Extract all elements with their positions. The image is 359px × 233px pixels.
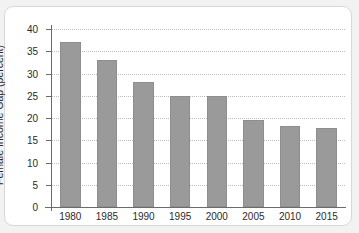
bar	[280, 126, 301, 207]
x-axis-tick-label: 1980	[59, 211, 81, 222]
y-axis-tick-label: 30	[12, 68, 38, 79]
gridline	[52, 29, 345, 30]
y-axis-tick-label: 40	[12, 24, 38, 35]
y-axis-label: Female Income Gap (percent)	[0, 45, 5, 185]
y-axis-tick-label: 20	[12, 113, 38, 124]
x-axis-tick-label: 2010	[279, 211, 301, 222]
chart-card: Female Income Gap (percent) 051015202530…	[4, 6, 352, 226]
x-axis-tick-label: 1985	[96, 211, 118, 222]
y-axis-tick-label: 0	[12, 202, 38, 213]
bar	[97, 60, 118, 207]
x-axis-tick-label: 2000	[206, 211, 228, 222]
bar	[170, 96, 191, 207]
bar	[60, 42, 81, 207]
y-axis-tick-label: 15	[12, 135, 38, 146]
x-axis-tick-label: 1990	[132, 211, 154, 222]
chart-figure: Female Income Gap (percent) 051015202530…	[0, 0, 359, 233]
bar	[207, 96, 228, 207]
y-axis-tick-label: 35	[12, 46, 38, 57]
gridline	[52, 51, 345, 52]
y-axis-tick-mark	[46, 207, 52, 208]
plot-area	[52, 29, 345, 207]
x-axis-tick-label: 2015	[316, 211, 338, 222]
bar	[243, 120, 264, 207]
x-axis-line	[45, 207, 346, 208]
bar	[133, 82, 154, 207]
y-axis-tick-label: 5	[12, 179, 38, 190]
y-axis-tick-label: 10	[12, 157, 38, 168]
x-axis-tick-label: 1995	[169, 211, 191, 222]
y-axis-tick-label: 25	[12, 90, 38, 101]
bar	[316, 128, 337, 207]
x-axis-tick-label: 2005	[242, 211, 264, 222]
